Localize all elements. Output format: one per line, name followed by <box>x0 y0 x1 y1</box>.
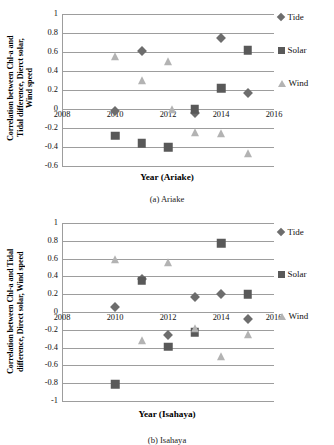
y-axis-tick-label: 1 <box>34 10 58 18</box>
y-axis-tick-label: -1 <box>34 397 58 405</box>
diamond-marker-icon <box>277 13 285 21</box>
data-point-tide <box>216 289 226 299</box>
data-point-solar <box>217 84 226 93</box>
y-axis-tick-label: 0.4 <box>34 67 58 75</box>
gridline <box>62 241 274 242</box>
data-point-solar <box>190 105 199 114</box>
square-marker-icon <box>278 271 285 278</box>
data-point-wind <box>138 337 146 345</box>
legend-label: Solar <box>288 269 307 279</box>
y-axis-line <box>62 14 63 166</box>
diamond-marker-icon <box>277 228 285 236</box>
data-point-wind <box>164 58 172 66</box>
y-axis-tick-label: 0.2 <box>34 290 58 298</box>
x-axis-tick-label: 2012 <box>152 314 184 322</box>
y-axis-tick-label: 0.6 <box>34 255 58 263</box>
legend-item-tide[interactable]: Tide <box>278 227 304 237</box>
legend-label: Tide <box>288 227 304 237</box>
x-axis-title-isahaya: Year (Isahaya) <box>0 409 334 419</box>
legend-label: Wind <box>289 311 309 321</box>
data-point-wind <box>111 52 119 60</box>
y-axis-tick-label: -0.4 <box>34 344 58 352</box>
y-axis-tick-label: -0.2 <box>34 326 58 334</box>
data-point-solar <box>164 143 173 152</box>
chart-panel-ariake: Correlation between Chl-a and Tidal diff… <box>0 0 334 212</box>
data-point-wind <box>217 352 225 360</box>
legend-ariake: TideSolarWind <box>278 12 334 102</box>
y-axis-tick-label: -0.6 <box>34 162 58 170</box>
gridline <box>62 166 274 167</box>
data-point-solar <box>164 342 173 351</box>
x-axis-tick-label: 2008 <box>46 314 78 322</box>
y-axis-tick-label: 0.4 <box>34 272 58 280</box>
x-axis-tick-label: 2010 <box>99 314 131 322</box>
data-point-solar <box>243 46 252 55</box>
y-axis-line <box>62 223 63 401</box>
x-axis-tick-label: 2008 <box>46 111 78 119</box>
data-point-tide <box>163 330 173 340</box>
data-point-solar <box>137 277 146 286</box>
y-axis-tick-label: -0.6 <box>34 361 58 369</box>
y-axis-tick-label: 0.8 <box>34 237 58 245</box>
y-axis-tick-label: -0.2 <box>34 124 58 132</box>
gridline <box>62 401 274 402</box>
y-axis-tick-label: 0.6 <box>34 48 58 56</box>
legend-item-solar[interactable]: Solar <box>278 269 307 279</box>
data-point-wind <box>191 128 199 136</box>
gridline <box>62 33 274 34</box>
plot-area-ariake: 10.80.60.40.20-0.2-0.4-0.620082010201220… <box>62 14 274 166</box>
y-axis-tick-label: -0.4 <box>34 143 58 151</box>
data-point-solar <box>217 239 226 248</box>
y-axis-title-ariake: Correlation between Chl-a and Tidal diff… <box>6 8 36 168</box>
data-point-tide <box>216 33 226 43</box>
legend-item-solar[interactable]: Solar <box>278 45 307 55</box>
gridline <box>62 294 274 295</box>
x-axis-tick-label: 2016 <box>258 111 290 119</box>
y-axis-tick-label: -0.8 <box>34 379 58 387</box>
y-axis-tick-label: 0.8 <box>34 29 58 37</box>
data-point-solar <box>243 290 252 299</box>
legend-label: Tide <box>288 12 304 22</box>
x-axis-tick-label: 2014 <box>205 314 237 322</box>
data-point-wind <box>168 105 176 113</box>
gridline <box>62 52 274 53</box>
legend-item-tide[interactable]: Tide <box>278 12 304 22</box>
gridline <box>62 223 274 224</box>
y-axis-tick-label: 1 <box>34 219 58 227</box>
gridline <box>62 14 274 15</box>
data-point-tide <box>110 302 120 312</box>
data-point-wind <box>164 258 172 266</box>
plot-area-isahaya: 10.80.60.40.20-0.2-0.4-0.6-0.8-120082010… <box>62 223 274 401</box>
gridline <box>62 365 274 366</box>
triangle-marker-icon <box>278 80 286 87</box>
gridline <box>62 128 274 129</box>
data-point-solar <box>111 380 120 389</box>
legend-item-wind[interactable]: Wind <box>278 78 308 88</box>
gridline <box>62 90 274 91</box>
legend-item-wind[interactable]: Wind <box>278 311 308 321</box>
gridline <box>62 71 274 72</box>
gridline <box>62 276 274 277</box>
data-point-wind <box>244 330 252 338</box>
legend-label: Wind <box>289 78 309 88</box>
data-point-wind <box>111 256 119 264</box>
data-point-solar <box>137 139 146 148</box>
chart-panel-isahaya: Correlation between Chl-a and Tidal diff… <box>0 213 334 443</box>
legend-label: Solar <box>288 45 307 55</box>
data-point-tide <box>137 46 147 56</box>
data-point-wind <box>191 324 199 332</box>
x-axis-title-ariake: Year (Ariake) <box>0 172 334 182</box>
data-point-wind <box>244 149 252 157</box>
data-point-wind <box>138 77 146 85</box>
panel-caption-isahaya: (b) Isahaya <box>0 435 334 445</box>
x-axis-tick-label: 2014 <box>205 111 237 119</box>
data-point-solar <box>111 131 120 140</box>
panel-caption-ariake: (a) Ariake <box>0 194 334 204</box>
triangle-marker-icon <box>278 313 286 320</box>
square-marker-icon <box>278 47 285 54</box>
y-axis-tick-label: 0.2 <box>34 86 58 94</box>
data-point-wind <box>217 129 225 137</box>
y-axis-title-isahaya: Correlation between Chl-a and Tidal diff… <box>6 219 36 404</box>
gridline <box>62 383 274 384</box>
